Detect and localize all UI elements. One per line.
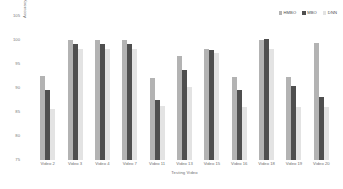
bar-dnn (269, 49, 274, 160)
y-tick-label: 80 (2, 134, 20, 138)
x-tick-label: Video 11 (149, 162, 165, 166)
bar-group (253, 16, 280, 160)
bar-group (280, 16, 307, 160)
bar-dnn (214, 53, 219, 160)
bar-dnn (50, 109, 55, 160)
y-axis: 1051009590858075 (0, 0, 20, 189)
bar-dnn (78, 49, 83, 160)
x-tick-label: Video 13 (176, 162, 192, 166)
y-tick-label: 100 (2, 38, 20, 42)
legend-item-hmbo: HMBO (279, 11, 297, 15)
legend-swatch-hmbo (279, 11, 282, 14)
bar-chart: HMBO MBO DNN 1051009590858075 Accuracy i… (0, 0, 343, 189)
bar-group (226, 16, 253, 160)
x-tick-label: Video 16 (231, 162, 247, 166)
bar-group (116, 16, 143, 160)
bar-group (89, 16, 116, 160)
bar-dnn (105, 49, 110, 160)
legend-swatch-mbo (302, 11, 305, 14)
x-tick-label: Video 2 (41, 162, 55, 166)
legend-item-mbo: MBO (302, 11, 317, 15)
bar-dnn (160, 106, 165, 160)
x-tick-label: Video 3 (68, 162, 82, 166)
legend-label-hmbo: HMBO (284, 11, 297, 15)
y-axis-title: Accuracy in % (22, 0, 27, 18)
bar-group (198, 16, 225, 160)
bar-group (34, 16, 61, 160)
bar-group (61, 16, 88, 160)
bars-container (34, 16, 335, 160)
legend-label-dnn: DNN (328, 11, 337, 15)
bar-group (143, 16, 170, 160)
x-tick-label: Video 20 (313, 162, 329, 166)
bar-dnn (296, 107, 301, 160)
x-tick-label: Video 4 (95, 162, 109, 166)
bar-dnn (132, 49, 137, 160)
y-tick-label: 90 (2, 86, 20, 90)
bar-group (308, 16, 335, 160)
y-tick-label: 75 (2, 158, 20, 162)
bar-group (171, 16, 198, 160)
bar-dnn (324, 107, 329, 160)
x-tick-label: Video 15 (204, 162, 220, 166)
x-tick-label: Video 18 (258, 162, 274, 166)
legend-swatch-dnn (323, 11, 326, 14)
legend-label-mbo: MBO (307, 11, 317, 15)
bar-dnn (187, 87, 192, 160)
plot-area (34, 16, 335, 160)
bar-dnn (242, 107, 247, 160)
y-tick-label: 85 (2, 110, 20, 114)
y-tick-label: 95 (2, 62, 20, 66)
x-axis-title: Testing Video (34, 170, 335, 175)
x-tick-label: Video 19 (286, 162, 302, 166)
legend-item-dnn: DNN (323, 11, 337, 15)
y-tick-label: 105 (2, 14, 20, 18)
x-tick-label: Video 7 (123, 162, 137, 166)
chart-legend: HMBO MBO DNN (279, 11, 337, 15)
